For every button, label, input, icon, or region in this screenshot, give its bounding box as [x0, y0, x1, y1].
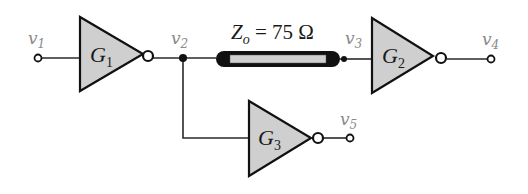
gate-g2-inversion-bubble [436, 53, 446, 63]
gate-g1-inversion-bubble [143, 51, 153, 61]
label-v4: v4 [482, 29, 499, 52]
gate-g3: G3 [249, 101, 323, 176]
transmission-line [216, 51, 340, 67]
junction-v3 [341, 56, 347, 62]
gate-g2: G2 [372, 18, 446, 93]
impedance-label: Zo = 75 Ω [231, 20, 314, 47]
terminal-v5 [347, 135, 354, 142]
label-v3: v3 [345, 28, 363, 51]
wire-v2-g3 [183, 58, 249, 138]
circuit-diagram: Zo = 75 Ω G1 G2 G3 v1 v2 v3 v4 v5 [0, 0, 528, 194]
label-v2: v2 [171, 28, 188, 51]
junction-v2 [179, 54, 187, 62]
gate-g1: G1 [80, 17, 153, 91]
label-v1: v1 [28, 28, 45, 51]
terminal-v1 [35, 55, 42, 62]
terminal-v4 [488, 56, 495, 63]
label-v5: v5 [340, 109, 357, 132]
gate-g3-inversion-bubble [313, 133, 323, 143]
